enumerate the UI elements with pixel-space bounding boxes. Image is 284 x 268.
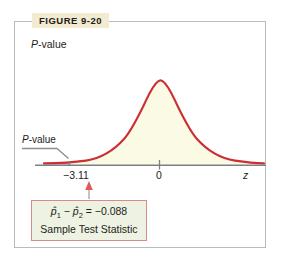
x-tick-label-zero: 0 xyxy=(152,169,166,181)
pvalue-callout-rest: -value xyxy=(29,134,56,145)
pvalue-heading-rest: -value xyxy=(38,38,67,50)
statistic-expression: p̂1 − p̂2 = −0.088 xyxy=(34,204,144,223)
statistic-description: Sample Test Statistic xyxy=(34,223,144,236)
minus-operator: − xyxy=(61,205,73,217)
statistic-arrow-head xyxy=(85,181,93,190)
figure-container: FIGURE 9-20 P-value P-value −3 xyxy=(0,0,284,268)
pvalue-heading: P-value xyxy=(31,38,67,50)
figure-caption-label: FIGURE 9-20 xyxy=(32,13,109,28)
pvalue-callout-label: P-value xyxy=(22,134,56,145)
x-axis-variable-label: z xyxy=(243,169,248,181)
statistic-equals-value: = −0.088 xyxy=(83,205,127,217)
pvalue-leader-line xyxy=(22,149,69,159)
sample-test-statistic-box: p̂1 − p̂2 = −0.088 Sample Test Statistic xyxy=(31,200,147,241)
normal-curve-fill xyxy=(44,80,264,164)
x-tick-label-neg311: −3.11 xyxy=(55,169,97,181)
pvalue-heading-italic: P xyxy=(31,38,38,50)
pvalue-callout-italic: P xyxy=(22,134,29,145)
